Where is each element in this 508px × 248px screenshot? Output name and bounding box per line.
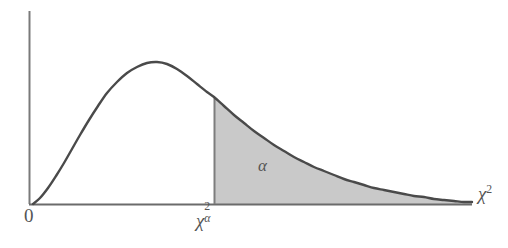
critical-value-label: χ2α (196, 208, 218, 230)
critical-value-subsup: 2α (204, 208, 217, 227)
x-axis-title-label: χ2 (478, 184, 492, 203)
chi-square-plot-svg (0, 0, 508, 248)
critical-value-chi-glyph: χ (196, 210, 204, 231)
chi-square-figure: 0 χ2α χ2 α (0, 0, 508, 248)
critical-value-superscript: 2 (204, 201, 210, 213)
origin-label: 0 (24, 206, 34, 225)
x-axis-superscript: 2 (486, 183, 492, 196)
critical-value-subscript: α (204, 213, 210, 225)
alpha-area-label: α (258, 157, 267, 174)
shaded-tail-area (214, 97, 472, 204)
